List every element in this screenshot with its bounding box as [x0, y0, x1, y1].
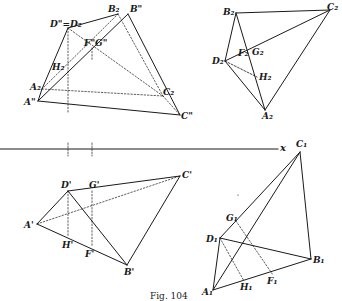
- point-label-bottom_right-d1: D₁: [206, 235, 218, 244]
- point-label-elevation_top_left-c2: C₂: [163, 88, 174, 97]
- figure-caption: Fig. 104: [150, 291, 188, 301]
- point-label-top_right-g2: G₂: [252, 48, 264, 57]
- point-label-elevation_top_left-d: D"=D₂: [50, 20, 82, 29]
- point-label-top_right-b2: B₂: [223, 8, 235, 17]
- point-label-plan_bottom_left-cp: C': [182, 171, 192, 180]
- point-label-top_right-f2: F₂: [238, 49, 248, 58]
- axis-label: x: [280, 143, 286, 153]
- point-label-plan_bottom_left-d1p: D': [61, 181, 72, 190]
- point-label-bottom_right-h1: H₁: [240, 283, 252, 292]
- point-label-elevation_top_left-fg: F"G": [84, 39, 107, 48]
- point-label-plan_bottom_left-g1p: G': [89, 181, 99, 190]
- point-label-top_right-c2: C₂: [327, 3, 338, 12]
- auxiliary-view-2: [225, 10, 330, 110]
- point-label-top_right-d2: D₂: [212, 57, 224, 66]
- point-label-bottom_right-c1: C₁: [296, 140, 307, 149]
- point-label-bottom_right-a1: A₁: [202, 288, 213, 297]
- point-label-bottom_right-b1: B₁: [313, 256, 325, 265]
- point-label-elevation_top_left-b2: B₂: [108, 5, 120, 14]
- point-label-bottom_right-f1: F₁: [267, 277, 277, 286]
- plan-view: [37, 176, 180, 265]
- point-label-elevation_top_left-a2pp: A": [24, 98, 36, 107]
- point-label-top_right-a2: A₂: [262, 112, 273, 121]
- point-label-plan_bottom_left-hp: H': [62, 241, 73, 250]
- point-label-plan_bottom_left-ap: A': [24, 221, 34, 230]
- point-label-elevation_top_left-cpp: C": [181, 112, 193, 121]
- point-label-elevation_top_left-a2: A₂: [30, 83, 41, 92]
- point-label-plan_bottom_left-bp: B': [124, 268, 134, 277]
- point-label-plan_bottom_left-fp: F': [85, 250, 94, 259]
- point-label-elevation_top_left-bpp: B": [130, 5, 142, 14]
- point-label-elevation_top_left-h2: H₂: [52, 63, 64, 72]
- point-label-bottom_right-g1: G₁: [226, 214, 238, 223]
- point-label-top_right-h2: H₂: [259, 73, 271, 82]
